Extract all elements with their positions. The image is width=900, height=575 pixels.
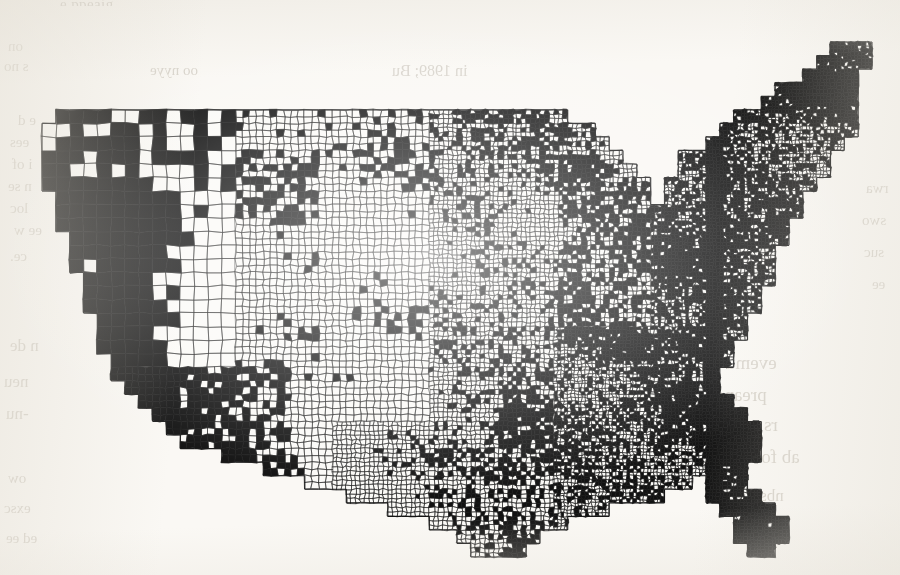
county-shaded — [263, 455, 271, 461]
county-shaded — [229, 428, 237, 435]
county-shaded — [194, 150, 208, 165]
county-shaded — [56, 164, 70, 178]
county-shaded — [125, 380, 133, 387]
county-shaded — [112, 204, 126, 217]
county-shaded — [124, 218, 139, 233]
county-shaded — [152, 245, 167, 259]
county-shaded — [572, 312, 577, 318]
county-shaded — [139, 272, 153, 285]
county-shaded — [69, 259, 84, 274]
county-shaded — [457, 204, 462, 210]
county-shaded — [407, 463, 412, 467]
county-shaded — [96, 150, 112, 164]
county-shaded — [153, 218, 167, 232]
county-shaded — [97, 313, 111, 326]
county-shaded — [594, 164, 600, 169]
county-shaded — [166, 191, 180, 205]
county-shaded — [214, 394, 222, 402]
county-shaded — [138, 218, 152, 232]
county-shaded — [97, 258, 112, 273]
county-shaded — [70, 231, 83, 246]
county-shaded — [558, 308, 564, 314]
county-shaded — [221, 110, 236, 123]
county-shaded — [152, 300, 167, 314]
county-shaded — [461, 390, 466, 394]
county-shaded — [600, 308, 606, 313]
county-shaded — [83, 285, 98, 299]
county-shaded — [152, 366, 160, 374]
county-shaded — [298, 164, 305, 171]
county-shaded — [181, 429, 188, 435]
county-shaded — [138, 231, 153, 246]
county-shaded — [636, 263, 642, 269]
county-shaded — [438, 462, 444, 468]
county-shaded — [111, 272, 124, 287]
county-shaded — [194, 401, 202, 409]
county-shaded — [124, 258, 139, 273]
county-shaded — [110, 122, 125, 136]
county-shaded — [622, 329, 626, 334]
county-shaded — [69, 217, 84, 232]
county-shaded — [470, 181, 476, 186]
county-shaded — [263, 373, 270, 380]
county-shaded — [132, 366, 138, 374]
county-shaded — [138, 245, 153, 259]
county-shaded — [56, 218, 70, 232]
county-shaded — [209, 401, 215, 408]
county-shaded — [277, 455, 285, 463]
county-shaded — [577, 164, 582, 169]
county-shaded — [42, 164, 57, 178]
county-shaded — [180, 110, 194, 124]
county-shaded — [83, 217, 97, 232]
county-shaded — [165, 204, 181, 219]
county-shaded — [394, 150, 402, 159]
county-shaded — [471, 195, 475, 200]
county-shaded — [193, 414, 201, 421]
county-shaded — [705, 160, 710, 165]
county-shaded — [448, 403, 453, 409]
county-shaded — [696, 209, 699, 212]
county-shaded — [96, 286, 112, 301]
county-shaded — [112, 190, 126, 204]
county-shaded — [256, 421, 264, 429]
county-shaded — [311, 353, 319, 361]
county-shaded — [623, 178, 628, 183]
county-shaded — [153, 353, 168, 367]
county-shaded — [159, 374, 167, 381]
county-shaded — [124, 245, 139, 259]
county-shaded — [291, 171, 298, 178]
county-shaded — [83, 110, 99, 125]
county-shaded — [229, 395, 235, 401]
us-county-choropleth-map — [0, 0, 900, 575]
county-shaded — [269, 380, 278, 388]
county-shaded — [69, 246, 84, 260]
county-shaded — [627, 255, 632, 259]
county-shaded — [42, 151, 57, 164]
county-shaded — [124, 272, 140, 286]
county-shaded — [692, 157, 695, 162]
county-shaded — [56, 109, 71, 124]
county-shaded — [152, 109, 167, 124]
county-shaded — [578, 499, 582, 503]
county-shaded — [180, 442, 186, 449]
county-shaded — [125, 177, 140, 191]
county-shaded — [489, 543, 495, 549]
county-shaded — [110, 326, 125, 341]
county-shaded — [228, 415, 236, 422]
county-shaded — [139, 312, 153, 326]
county-shaded — [124, 150, 140, 165]
county-shaded — [664, 225, 668, 228]
county-shaded — [278, 184, 285, 191]
county-shaded — [536, 394, 540, 399]
county-shaded — [591, 245, 597, 250]
county-shaded — [83, 232, 97, 246]
county-shaded — [614, 308, 618, 314]
county-shaded — [522, 416, 527, 422]
county-shaded — [484, 516, 489, 522]
county-shaded — [750, 190, 755, 194]
county-shaded — [367, 164, 375, 171]
county-shaded — [737, 164, 741, 167]
county-shaded — [674, 282, 679, 286]
county-shaded — [56, 137, 71, 151]
county-shaded — [642, 263, 647, 268]
